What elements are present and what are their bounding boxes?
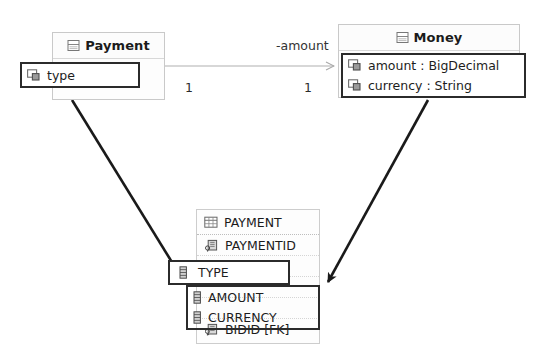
diagram-canvas: Payment type type [0, 0, 553, 364]
table-currency-label: CURRENCY [208, 310, 277, 325]
class-icon [67, 39, 80, 52]
money-attribute-row-currency[interactable]: currency : String [343, 76, 524, 97]
highlight-table-amount-currency-rows: AMOUNT CURRENCY [188, 287, 318, 328]
highlight-payment-type-content: type [22, 64, 138, 86]
payment-table-label-paymentid: PAYMENTID [225, 238, 296, 253]
table-icon [204, 216, 218, 229]
column-icon [179, 266, 188, 279]
association-target-multiplicity: 1 [304, 80, 312, 95]
attribute-icon [348, 79, 363, 92]
highlight-money-attributes-rows: amount : BigDecimal currency : String [343, 55, 524, 96]
money-amount-label: amount : BigDecimal [368, 58, 499, 73]
payment-class-name: Payment [85, 38, 150, 53]
money-class-name: Money [414, 30, 463, 45]
money-class-header: Money [339, 25, 519, 51]
highlight-money-attributes[interactable]: amount : BigDecimal currency : String [341, 53, 526, 98]
class-icon [396, 31, 409, 44]
payment-type-label: type [47, 68, 75, 83]
highlight-table-type[interactable]: TYPE [168, 260, 290, 285]
highlight-table-type-content: TYPE [170, 262, 288, 283]
table-amount-label: AMOUNT [208, 290, 263, 305]
mapping-arrow-type [72, 100, 178, 272]
column-icon [193, 311, 202, 324]
table-row-currency[interactable]: CURRENCY [188, 308, 318, 329]
association-source-multiplicity: 1 [185, 80, 193, 95]
money-attribute-row-amount[interactable]: amount : BigDecimal [343, 55, 524, 76]
column-icon [193, 291, 202, 304]
attribute-icon [348, 59, 363, 72]
table-type-label: TYPE [198, 265, 229, 280]
attribute-icon [27, 69, 42, 82]
highlight-table-amount-currency[interactable]: AMOUNT CURRENCY [186, 285, 320, 330]
table-row-amount[interactable]: AMOUNT [188, 287, 318, 308]
association-role-label: -amount [276, 38, 329, 53]
payment-table-row-paymentid[interactable]: PAYMENTID [197, 235, 319, 256]
mapping-arrow-money [328, 100, 428, 282]
payment-table-name: PAYMENT [224, 215, 282, 230]
primary-key-icon [205, 239, 218, 252]
money-currency-label: currency : String [368, 78, 472, 93]
payment-class-header: Payment [53, 33, 164, 59]
highlight-payment-type[interactable]: type [20, 62, 140, 88]
payment-table-header: PAYMENT [197, 210, 319, 235]
